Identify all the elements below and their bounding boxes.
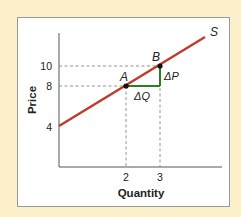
delta-q-label: ΔQ: [133, 90, 150, 102]
curve-label: S: [210, 25, 218, 39]
y-axis-label: Price: [26, 86, 38, 114]
y-tick-10: 10: [40, 60, 52, 72]
point-b-label: B: [152, 50, 160, 64]
x-tick-3: 3: [157, 171, 163, 183]
x-axis-label: Quantity: [118, 187, 165, 199]
y-tick-4: 4: [46, 121, 52, 133]
x-tick-2: 2: [123, 171, 129, 183]
supply-curve: [59, 37, 205, 126]
point-a: [123, 83, 128, 88]
point-a-label: A: [119, 70, 128, 84]
supply-chart: S A B ΔP ΔQ 10 8 4 2 3 Quantity Price: [0, 0, 241, 217]
y-tick-8: 8: [46, 80, 52, 92]
point-b: [157, 63, 162, 68]
delta-p-label: ΔP: [163, 70, 179, 82]
